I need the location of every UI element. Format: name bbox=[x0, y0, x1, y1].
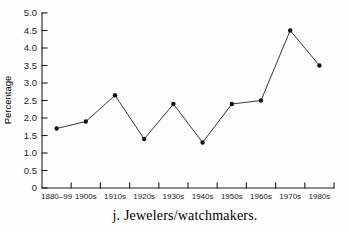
figure: Percentage 00.51.01.52.02.53.03.54.04.55… bbox=[0, 0, 349, 232]
data-point bbox=[54, 126, 58, 130]
data-point bbox=[142, 137, 146, 141]
x-tick-label: 1980s bbox=[309, 192, 331, 201]
data-point bbox=[317, 63, 321, 67]
y-tick-label: 0.5 bbox=[24, 165, 37, 176]
x-tick-label: 1910s bbox=[104, 192, 126, 201]
y-tick-label: 0 bbox=[32, 182, 37, 193]
x-tick-label: 1920s bbox=[133, 192, 155, 201]
x-tick-label: 1940s bbox=[192, 192, 214, 201]
y-tick-label: 5.0 bbox=[24, 7, 37, 18]
y-tick-label: 1.5 bbox=[24, 130, 37, 141]
x-tick-label: 1880–99 bbox=[41, 192, 73, 201]
y-tick-label: 2.5 bbox=[24, 95, 37, 106]
axes-spines bbox=[42, 13, 334, 188]
data-point bbox=[171, 102, 175, 106]
data-line bbox=[57, 31, 320, 143]
y-axis-label: Percentage bbox=[2, 76, 13, 125]
y-tick-label: 2.0 bbox=[24, 112, 37, 123]
chart-plot-area: 00.51.01.52.02.53.03.54.04.55.01880–9919… bbox=[24, 7, 334, 201]
data-point bbox=[200, 140, 204, 144]
x-tick-label: 1960s bbox=[250, 192, 272, 201]
x-tick-label: 1950s bbox=[221, 192, 243, 201]
figure-caption: j. Jewelers/watchmakers. bbox=[0, 208, 349, 224]
x-tick-label: 1970s bbox=[279, 192, 301, 201]
data-point bbox=[288, 28, 292, 32]
x-tick-label: 1930s bbox=[163, 192, 185, 201]
y-tick-label: 3.0 bbox=[24, 77, 37, 88]
y-tick-label: 1.0 bbox=[24, 147, 37, 158]
data-point bbox=[113, 93, 117, 97]
y-tick-label: 4.5 bbox=[24, 25, 37, 36]
y-tick-label: 3.5 bbox=[24, 60, 37, 71]
x-tick-label: 1900s bbox=[75, 192, 97, 201]
y-tick-label: 4.0 bbox=[24, 42, 37, 53]
line-chart: Percentage 00.51.01.52.02.53.03.54.04.55… bbox=[0, 0, 349, 206]
data-point bbox=[259, 98, 263, 102]
data-point bbox=[230, 102, 234, 106]
data-point bbox=[84, 119, 88, 123]
